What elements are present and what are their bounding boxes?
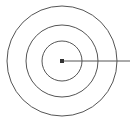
concentric-circles-diagram xyxy=(0,0,130,121)
diagram-svg xyxy=(0,0,130,121)
center-dot xyxy=(60,59,64,63)
